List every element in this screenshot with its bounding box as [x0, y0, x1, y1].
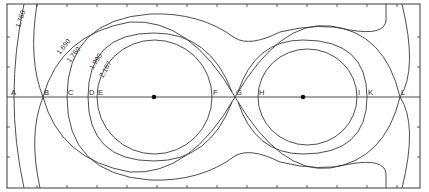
- left-center-dot: [152, 95, 157, 100]
- contour-label-0: 1.760: [14, 9, 26, 28]
- right-center-dot: [301, 95, 306, 100]
- axis-point-label-h: H: [259, 88, 264, 97]
- axis-point-label-l: L: [401, 88, 405, 97]
- axis-point-label-b: B: [44, 88, 49, 97]
- axis-point-label-a: A: [11, 88, 16, 97]
- contour-diagram: ABCDEFGHIKL 1.7601.6901.7601.9902.167: [0, 0, 429, 192]
- contour-label-4: 2.167: [98, 60, 113, 79]
- contour-1760-inner: [67, 4, 386, 188]
- axis-point-label-f: F: [213, 88, 218, 97]
- axis-point-label-k: K: [368, 88, 373, 97]
- axis-point-label-c: C: [68, 88, 74, 97]
- axis-point-labels: ABCDEFGHIKL: [11, 88, 405, 97]
- axis-point-label-e: E: [98, 88, 103, 97]
- contour-value-labels: 1.7601.6901.7601.9902.167: [14, 9, 112, 78]
- axis-point-label-i: I: [358, 88, 360, 97]
- axis-point-label-g: G: [236, 88, 242, 97]
- axis-point-label-d: D: [89, 88, 95, 97]
- contour-label-2: 1.760: [65, 45, 81, 63]
